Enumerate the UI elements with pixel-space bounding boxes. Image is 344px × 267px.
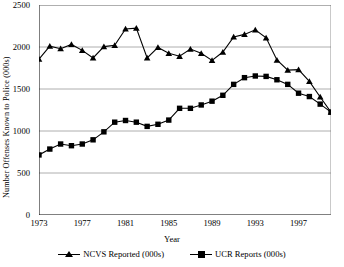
legend-label-ncvs: NCVS Reported (000s)	[83, 249, 164, 259]
marker-square	[285, 82, 290, 87]
data-series-group	[39, 25, 331, 158]
marker-square	[155, 122, 160, 127]
marker-square	[166, 117, 171, 122]
marker-square	[199, 102, 204, 107]
marker-square	[242, 75, 247, 80]
legend-item-ncvs: NCVS Reported (000s)	[58, 249, 164, 259]
marker-square	[328, 109, 331, 114]
x-tick-label: 1985	[149, 218, 189, 228]
marker-square	[188, 106, 193, 111]
chart-figure: Number Offenses Known to Police (000s) 0…	[0, 0, 344, 267]
marker-square	[317, 101, 322, 106]
plot-area	[39, 5, 331, 215]
marker-square	[231, 82, 236, 87]
marker-square	[134, 119, 139, 124]
x-tick-label: 1973	[19, 218, 59, 228]
marker-square	[296, 91, 301, 96]
x-tick-label: 1997	[279, 218, 319, 228]
marker-square	[90, 137, 95, 142]
marker-triangle	[68, 41, 75, 47]
marker-triangle	[47, 43, 54, 49]
x-tick-label: 1989	[192, 218, 232, 228]
marker-square	[220, 93, 225, 98]
square-marker-icon	[190, 250, 212, 259]
marker-square	[80, 141, 85, 146]
marker-square	[307, 94, 312, 99]
marker-triangle	[198, 50, 205, 56]
marker-triangle	[317, 94, 324, 100]
marker-square	[274, 77, 279, 82]
marker-triangle	[252, 27, 259, 33]
marker-square	[39, 152, 42, 157]
triangle-marker-icon	[58, 250, 80, 259]
marker-square	[123, 118, 128, 123]
marker-square	[253, 73, 258, 78]
marker-square	[263, 74, 268, 79]
y-tick-label: 500	[0, 168, 30, 178]
legend-label-ucr: UCR Reports (000s)	[215, 249, 286, 259]
x-tick-label: 1993	[235, 218, 275, 228]
x-axis-title: Year	[0, 234, 344, 244]
marker-triangle	[241, 31, 248, 37]
legend-item-ucr: UCR Reports (000s)	[190, 249, 286, 259]
x-tick-label: 1977	[62, 218, 102, 228]
y-tick-label: 2500	[0, 0, 30, 10]
chart-canvas	[39, 5, 331, 215]
marker-square	[58, 141, 63, 146]
marker-square	[112, 119, 117, 124]
marker-triangle	[274, 57, 281, 63]
marker-square	[177, 106, 182, 111]
gridlines	[39, 5, 331, 173]
x-tick-label: 1981	[106, 218, 146, 228]
marker-triangle	[220, 49, 227, 55]
marker-square	[101, 129, 106, 134]
marker-triangle	[165, 50, 172, 56]
chart-legend: NCVS Reported (000s) UCR Reports (000s)	[0, 249, 344, 259]
plot-frame	[39, 5, 331, 215]
marker-square	[69, 143, 74, 148]
y-tick-label: 1500	[0, 84, 30, 94]
y-tick-label: 1000	[0, 126, 30, 136]
marker-square	[144, 124, 149, 129]
marker-square	[47, 146, 52, 151]
y-tick-label: 2000	[0, 42, 30, 52]
marker-square	[209, 98, 214, 103]
marker-triangle	[79, 47, 86, 53]
